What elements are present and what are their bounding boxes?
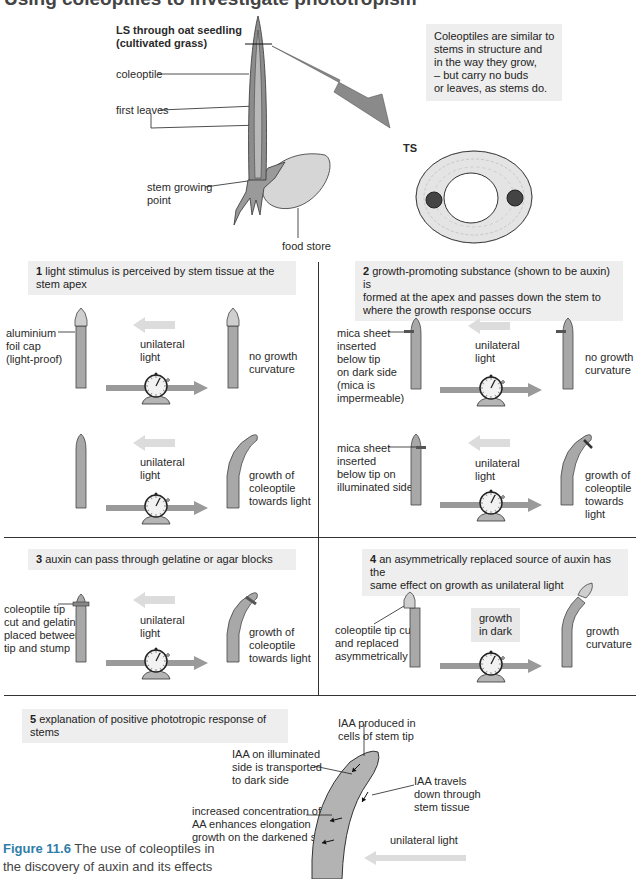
experiment-drawings: [0, 0, 640, 879]
p4-replaced-tip: [404, 592, 415, 608]
clock-button: [167, 654, 170, 657]
p1-r1-capped-coleoptile-foil-cap: [75, 308, 87, 326]
p2-r1-mica-sheet: [404, 330, 414, 333]
p4-time-arrow-head: [528, 659, 542, 673]
p1-r1-time-arrow-head: [194, 381, 208, 395]
clock-knob: [490, 490, 493, 493]
p4-stump: [410, 608, 420, 667]
p5-light-arrow: [364, 851, 466, 865]
figure-caption: Figure 11.6 The use of coleoptiles in th…: [3, 840, 215, 876]
clock-button: [502, 496, 505, 499]
p1-r1-light-arrow: [133, 317, 175, 333]
p2-r1-result-mica: [556, 330, 566, 333]
p2-r2-light-arrow: [468, 435, 510, 451]
p3-light-arrow: [133, 592, 175, 608]
clock-button: [502, 657, 505, 660]
p1-r2-light-arrow: [133, 435, 175, 451]
clock-knob: [155, 648, 158, 651]
p4-curved-stump: [562, 597, 585, 667]
p1-r2-curved-coleoptile: [227, 435, 257, 508]
p1-r2-coleoptile: [76, 434, 86, 508]
p2-r1-result-coleoptile: [563, 318, 573, 389]
p2-r2-curved-coleoptile: [561, 435, 591, 505]
clock-knob: [490, 651, 493, 654]
p2-r1-light-arrow: [468, 318, 510, 334]
p2-r1-clock-icon: [477, 375, 505, 407]
clock-knob: [155, 373, 158, 376]
p1-r1-clock-icon: [142, 373, 170, 405]
p2-r2-clock-icon: [477, 490, 505, 522]
p3-time-arrow-head: [194, 656, 208, 670]
clock-button: [167, 499, 170, 502]
p3-clock-icon: [142, 648, 170, 680]
p2-r1-time-arrow-head: [528, 383, 542, 397]
p2-r2-coleoptile: [411, 434, 421, 505]
p1-r2-time-arrow-head: [194, 501, 208, 515]
p1-r1-result-coleoptile-foil-cap: [227, 308, 239, 326]
p2-r2-mica-sheet: [416, 446, 426, 449]
p4-clock-icon: [477, 651, 505, 683]
figure-number: Figure 11.6: [3, 841, 71, 856]
clock-button: [167, 379, 170, 382]
p2-r1-coleoptile: [411, 318, 421, 389]
p4-result-tip: [578, 583, 592, 598]
p5-leader-iaa-travels: [372, 785, 414, 795]
p1-r1-result-coleoptile: [228, 326, 238, 388]
clock-knob: [155, 493, 158, 496]
clock-knob: [490, 375, 493, 378]
p3-gelatin-block: [73, 602, 89, 606]
p1-r2-clock-icon: [142, 493, 170, 525]
p4-leader: [374, 606, 404, 624]
p1-r1-capped-coleoptile: [76, 326, 86, 388]
p2-r2-time-arrow-head: [528, 498, 542, 512]
clock-button: [502, 381, 505, 384]
